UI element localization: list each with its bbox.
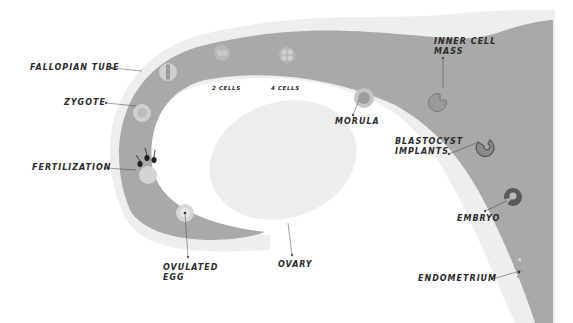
ovary-leader: [288, 223, 292, 255]
label-embryo: EMBRYO: [457, 214, 500, 224]
label-ovulated-egg-line2: EGG: [163, 273, 218, 283]
label-fertilization: FERTILIZATION: [32, 163, 111, 173]
ovary: [194, 82, 373, 239]
label-inner-cell-mass: INNER CELL MASS: [434, 37, 496, 57]
label-inner-cell-mass-line1: INNER CELL: [434, 37, 496, 47]
four-cells-icon: [279, 47, 295, 63]
zygote-icon: [133, 104, 151, 122]
fallopian-tube-cell-icon: [159, 63, 177, 81]
two-cells-icon: [214, 45, 230, 61]
label-endometrium: ENDOMETRIUM: [418, 274, 497, 284]
fertilization-egg-icon: [139, 166, 157, 184]
label-two-cells: 2 CELLS: [212, 83, 241, 93]
label-inner-cell-mass-line2: MASS: [434, 47, 496, 57]
label-fallopian-tube: FALLOPIAN TUBE: [30, 63, 119, 73]
label-blastocyst-line2: IMPLANTS: [395, 147, 463, 157]
label-ovulated-egg-line1: OVULATED: [163, 263, 218, 273]
label-zygote: ZYGOTE: [64, 98, 106, 108]
label-blastocyst-implants: BLASTOCYST IMPLANTS: [395, 137, 463, 157]
label-ovulated-egg: OVULATED EGG: [163, 263, 218, 283]
label-four-cells: 4 CELLS: [271, 83, 300, 93]
label-morula: MORULA: [335, 117, 380, 127]
label-blastocyst-line1: BLASTOCYST: [395, 137, 463, 147]
label-ovary: OVARY: [278, 260, 313, 270]
